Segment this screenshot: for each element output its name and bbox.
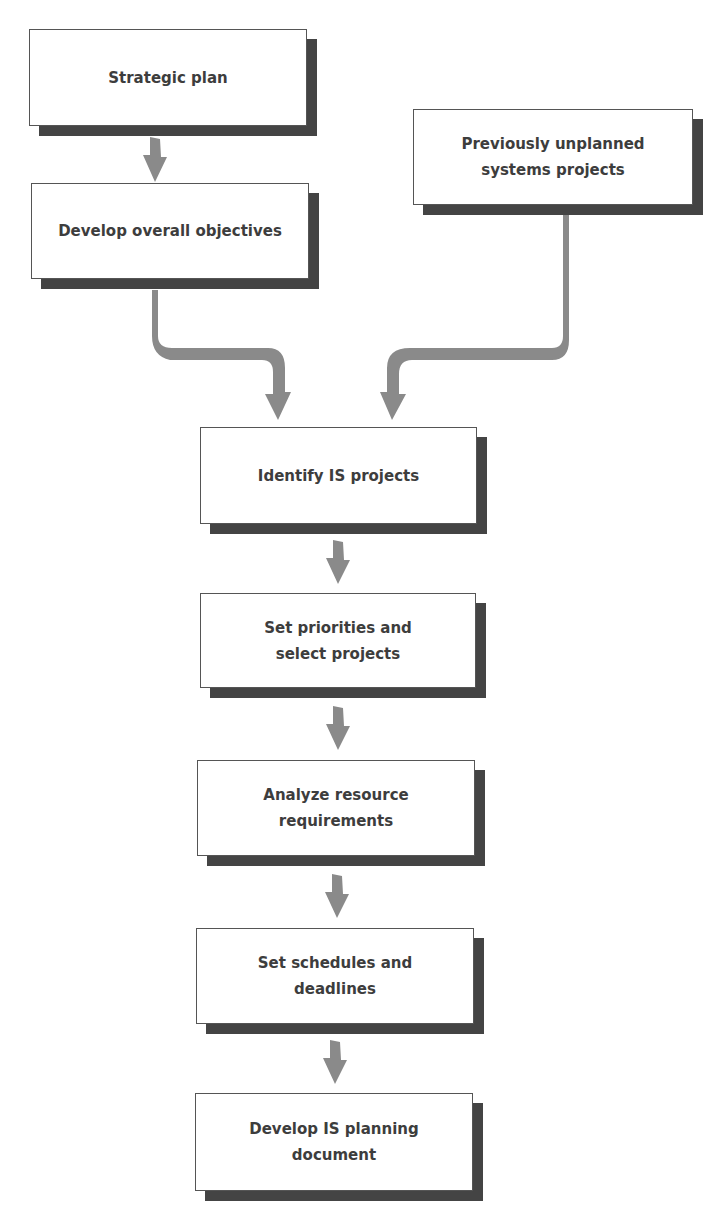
arrow-down-icon (326, 540, 350, 584)
arrow-down-icon (326, 706, 350, 750)
node-strategic-plan: Strategic plan (29, 29, 307, 126)
node-set-priorities: Set priorities and select projects (200, 593, 476, 688)
node-label: Analyze resource requirements (198, 782, 474, 834)
node-analyze-resources: Analyze resource requirements (197, 760, 475, 856)
arrow-down-icon (323, 1040, 347, 1084)
node-set-schedules: Set schedules and deadlines (196, 928, 474, 1024)
node-label: Identify IS projects (238, 463, 439, 489)
node-label: Develop overall objectives (38, 218, 302, 244)
node-label: Develop IS planning document (196, 1116, 472, 1168)
node-label: Set schedules and deadlines (197, 950, 473, 1002)
arrow-bent-right-connector (380, 215, 569, 420)
node-develop-objectives: Develop overall objectives (31, 183, 309, 279)
arrow-bent-left-connector (152, 290, 291, 420)
arrow-down-icon (325, 874, 349, 918)
node-label: Previously unplanned systems projects (414, 131, 692, 183)
node-label: Strategic plan (88, 65, 248, 91)
node-planning-document: Develop IS planning document (195, 1093, 473, 1191)
node-label: Set priorities and select projects (201, 615, 475, 667)
arrow-down-icon (143, 137, 167, 182)
node-identify-projects: Identify IS projects (200, 427, 477, 524)
node-unplanned-projects: Previously unplanned systems projects (413, 109, 693, 205)
